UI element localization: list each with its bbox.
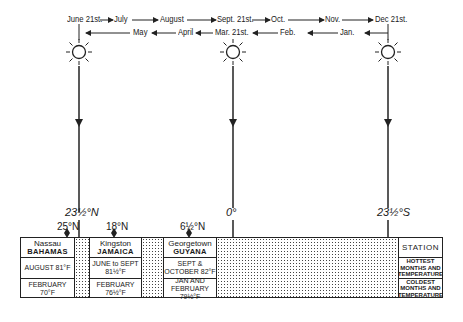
station-column-georgetown: GeorgetownGUYANA SEPT & OCTOBER 82°F JAN… [163,238,216,297]
sun-icon [73,46,395,59]
station-country: GUYANA [173,248,207,256]
coldest-cell: JAN AND FEBRUARY 79½°F [164,279,216,298]
station-country: BAHAMAS [27,248,67,256]
month-label: Nov. [325,15,340,24]
station-latitude-marker: 25°N [57,222,79,232]
coldest-cell: FEBRUARY 76½°F [90,279,141,298]
station-column-nassau: NassauBAHAMAS AUGUST 81°F FEBRUARY 70°F [21,238,74,297]
hottest-cell: JUNE to SEPT 81½°F [90,258,141,279]
coldest-cell: FEBRUARY 70°F [21,279,74,298]
latitude-label-capricorn: 23½°S [377,207,410,218]
month-label: Jan. [340,28,354,37]
station-latitude-marker: 6½°N [180,222,205,232]
stippled-gap [141,238,163,297]
latitude-label-cancer: 23½°N [65,207,99,218]
month-label: May [133,28,147,37]
month-label: Oct. [271,15,285,24]
climate-table: NassauBAHAMAS AUGUST 81°F FEBRUARY 70°F … [20,237,443,298]
month-label: Mar. 21st. [215,28,249,37]
legend-hottest: HOTTEST MONTHS AND TEMPERATURE [399,258,442,279]
month-label: Dec 21st. [375,15,407,24]
legend-station: STATION [399,238,442,258]
legend-column: STATION HOTTEST MONTHS AND TEMPERATURE C… [398,238,442,297]
month-label: June 21st. [67,15,102,24]
month-label: July [114,15,128,24]
station-column-kingston: KingstonJAMAICA JUNE to SEPT 81½°F FEBRU… [89,238,141,297]
hottest-cell: AUGUST 81°F [21,258,74,279]
month-label: August [160,15,184,24]
station-country: JAMAICA [97,248,133,256]
stippled-gap [74,238,89,297]
latitude-label-equator: 0° [226,207,237,218]
month-label: April [178,28,193,37]
station-latitude-marker: 18°N [106,222,128,232]
stippled-gap [216,238,398,297]
month-label: Sept. 21st. [217,15,254,24]
legend-coldest: COLDEST MONTHS AND TEMPERATURE [399,279,442,298]
month-label: Feb. [280,28,295,37]
